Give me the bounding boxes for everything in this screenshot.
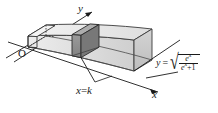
origin-label: O — [18, 48, 26, 59]
radical-sign: √ — [170, 52, 179, 76]
numerator-exponent: x — [189, 52, 192, 58]
curve-equation-label: y = √ ex ex+1 — [156, 54, 200, 72]
solid-of-known-cross-section-figure: O y x x=k y = √ ex ex+1 — [0, 0, 218, 113]
origin-box-bottom-front — [28, 47, 37, 48]
radical-group: √ ex ex+1 — [170, 54, 200, 72]
denominator-plus-one: +1 — [187, 63, 196, 72]
xk-leader-line — [95, 76, 112, 82]
curve-equation: y = √ ex ex+1 — [156, 54, 200, 72]
x-axis-label: x — [152, 89, 157, 100]
curve-lhs: y — [156, 58, 160, 68]
radicand: ex ex+1 — [178, 54, 200, 72]
curve-equals: = — [162, 58, 168, 68]
slab-plane-value: k — [87, 84, 92, 96]
fraction-denominator: ex+1 — [179, 63, 198, 72]
slab-drop-line — [81, 58, 95, 82]
y-axis-label: y — [78, 3, 83, 14]
slab-plane-label: x=k — [76, 85, 92, 96]
fraction: ex ex+1 — [179, 55, 198, 72]
